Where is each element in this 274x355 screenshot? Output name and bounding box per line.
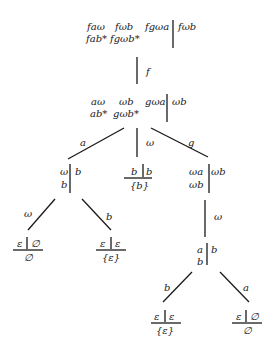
ng-right: ωb: [211, 166, 226, 177]
nomega-right: b: [146, 166, 152, 177]
root-term-4: fab*: [86, 33, 107, 44]
root-term-2: fωb: [115, 21, 133, 32]
leaf3-left: ε: [154, 311, 159, 322]
na-left-2: b: [61, 179, 67, 190]
tree-edges: [0, 0, 274, 355]
leaf1-left: ε: [17, 238, 22, 249]
leaf4-left: ε: [236, 311, 241, 322]
leaf3-right: ε: [169, 311, 174, 322]
edge-label-ngw-b: b: [164, 282, 170, 293]
na-left-1: ω: [60, 166, 68, 177]
leaf1-result: ∅: [24, 252, 33, 263]
edge-label-a: a: [80, 137, 86, 148]
nomega-result: {b}: [130, 180, 149, 191]
edge-label-na-b: b: [106, 211, 112, 222]
edge-label-f: f: [146, 66, 150, 77]
leaf4-result: ∅: [243, 325, 252, 336]
edge-label-ng-omega: ω: [214, 211, 222, 222]
edge-label-g: g: [188, 137, 194, 148]
leaf2-right: ε: [115, 238, 120, 249]
n1-right-term: ωb: [172, 96, 187, 107]
n1-term-1: aω: [91, 96, 105, 107]
ng-left-2: ωb: [189, 179, 204, 190]
n1-term-5: gωb*: [113, 108, 139, 119]
na-right: b: [75, 166, 81, 177]
n1-term-2: ωb: [119, 96, 134, 107]
edge-label-na-omega: ω: [24, 208, 32, 219]
ngw-left-2: b: [197, 256, 203, 267]
root-term-1: faω: [87, 21, 105, 32]
leaf1-right: ∅: [31, 238, 40, 249]
root-term-3: fgωa: [145, 21, 169, 32]
leaf2-result: {ε}: [102, 252, 120, 263]
edge-label-omega: ω: [146, 137, 154, 148]
n1-term-4: ab*: [90, 108, 107, 119]
leaf2-left: ε: [100, 238, 105, 249]
leaf4-right: ∅: [250, 311, 259, 322]
n1-term-3: gωa: [145, 96, 166, 107]
root-right-term: fωb: [178, 21, 196, 32]
edge-label-ngw-a: a: [243, 282, 249, 293]
nomega-left: b: [131, 166, 137, 177]
leaf3-result: {ε}: [156, 325, 174, 336]
ngw-left-1: a: [197, 244, 203, 255]
root-term-5: fgωb*: [110, 33, 140, 44]
ngw-right: b: [211, 244, 217, 255]
ng-left-1: ωa: [189, 166, 203, 177]
